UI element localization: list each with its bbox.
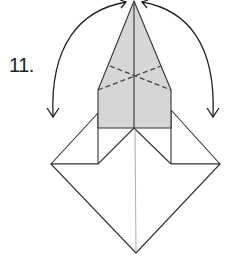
colored-kite-flap: [98, 1, 171, 128]
origami-diagram: [0, 0, 228, 269]
